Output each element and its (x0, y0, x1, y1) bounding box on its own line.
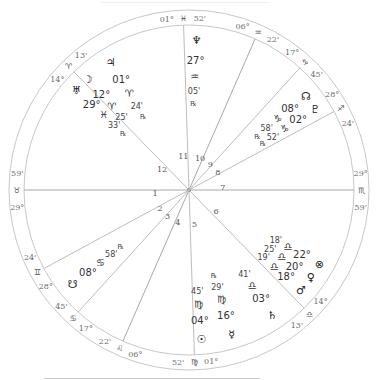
retrograde-icon: ℞ (211, 272, 217, 280)
house-number-9: 9 (208, 160, 213, 169)
natal-chart-wheel: 29°♉59'28°♊24'17°♋45'06°♌22'01°♍52'14°♎1… (0, 0, 378, 380)
cusp-degree: 06° (128, 350, 142, 359)
planet-glyph-icon: ☋ (68, 278, 78, 291)
planet-degree: 04° (191, 315, 209, 326)
house-number-2: 2 (158, 204, 163, 213)
cusp-line-5 (189, 190, 194, 355)
planet-minute: 45' (191, 287, 203, 296)
cusp-degree: 17° (285, 48, 299, 57)
cusp-minute: 45' (310, 70, 322, 79)
cusp-degree: 17° (79, 324, 93, 333)
planet-sign-icon: ♎ (277, 251, 286, 262)
planet-degree: 08° (79, 267, 97, 278)
planet-saturn: ♄03°♎41' (238, 270, 277, 322)
planet-degree: 08° (281, 103, 299, 114)
retrograde-icon: ℞ (117, 243, 123, 251)
cusp-sign-icon: ♎ (306, 310, 313, 319)
cusp-sign-icon: ♌ (116, 344, 123, 353)
cusp-degree: 28° (325, 90, 339, 99)
planet-glyph-icon: ☽ (83, 73, 93, 86)
planet-glyph-icon: ♆ (192, 34, 202, 47)
cusp-sign-icon: ♐ (337, 104, 344, 113)
cusp-sign-icon: ♍ (191, 358, 198, 367)
planet-minute: 29' (211, 283, 223, 292)
planet-sign-icon: ♓ (99, 109, 108, 120)
cusp-degree: 29° (354, 169, 368, 178)
planet-minute: 58' (261, 124, 273, 133)
cusp-minute: 52' (172, 358, 184, 367)
cusp-sign-icon: ♓ (180, 14, 187, 23)
cusp-line-3 (78, 190, 189, 312)
house-number-5: 5 (192, 220, 197, 229)
cusp-minute: 13' (75, 51, 87, 60)
planet-glyph-icon: ♄ (267, 309, 277, 322)
planet-glyph-icon: ♂ (296, 284, 306, 297)
cusp-degree: 14° (314, 297, 328, 306)
cusp-minute: 22' (99, 337, 111, 346)
cusp-degree: 01° (160, 15, 174, 24)
planet-glyph-icon: ♃ (106, 56, 116, 69)
planet-degree: 02° (289, 114, 307, 125)
retrograde-icon: ℞ (260, 140, 266, 148)
house-number-12: 12 (157, 165, 167, 174)
planet-sign-icon: ♈ (108, 101, 117, 112)
planet-degree: 27° (187, 55, 205, 66)
planet-degree: 20° (286, 261, 304, 272)
planet-mercury: ☿16°♍29'℞ (211, 272, 235, 340)
planet-sign-icon: ♍ (194, 299, 203, 310)
planet-glyph-icon: ⊗ (315, 258, 324, 271)
cusp-minute: 52' (194, 14, 206, 23)
cusp-sign-icon: ♈ (65, 62, 72, 71)
house-number-11: 11 (178, 152, 188, 161)
planet-neptune: ♆27°♒05'℞ (187, 34, 205, 108)
house-number-10: 10 (195, 154, 205, 163)
cusp-sign-icon: ♒ (255, 28, 262, 37)
house-number-3: 3 (165, 212, 170, 221)
retrograde-icon: ℞ (190, 100, 196, 108)
planet-glyph-icon: ♇ (310, 103, 320, 116)
planet-degree: 01° (112, 74, 130, 85)
house-number-4: 4 (175, 218, 180, 227)
retrograde-icon: ℞ (140, 113, 146, 121)
planet-degree: 03° (252, 293, 270, 304)
cusp-degree: 28° (39, 282, 53, 291)
cusp-line-11 (184, 25, 189, 190)
retrograde-icon: ℞ (254, 133, 260, 141)
cusp-minute: 59' (11, 169, 23, 178)
cusp-sign-icon: ♊ (34, 268, 41, 277)
cusp-minute: 45' (55, 302, 67, 311)
planet-minute: 24' (131, 102, 143, 111)
house-number-1: 1 (153, 189, 158, 198)
planet-degree: 18° (277, 271, 295, 282)
planet-sign-icon: ♋ (96, 257, 105, 268)
cusp-minute: 22' (267, 35, 279, 44)
retrograde-icon: ℞ (120, 130, 126, 138)
planet-degree: 16° (217, 310, 235, 321)
planet-sign-icon: ♎ (248, 280, 257, 291)
planet-minute: 41' (238, 270, 250, 279)
house-number-7: 7 (220, 183, 225, 192)
planet-degree: 22° (293, 249, 311, 260)
planet-minute: 25' (264, 245, 276, 254)
planet-glyph-icon: ☉ (197, 333, 207, 346)
planet-sign-icon: ♎ (284, 241, 293, 252)
planet-sign-icon: ♍ (217, 294, 226, 305)
cusp-lines (24, 25, 354, 355)
cusp-degree: 29° (10, 203, 24, 212)
house-number-6: 6 (213, 207, 218, 216)
planet-glyph-icon: ♀ (307, 271, 315, 284)
cusp-sign-icon: ♉ (13, 186, 20, 195)
planet-degree: 29° (83, 99, 101, 110)
cusp-degree: 14° (50, 75, 64, 84)
planet-glyph-icon: ☿ (228, 328, 235, 341)
planet-minute: 33' (108, 121, 120, 130)
cusp-minute: 59' (355, 203, 367, 212)
planet-minute: 18' (270, 236, 282, 245)
planet-glyph-icon: ☊ (301, 90, 311, 103)
house-number-8: 8 (215, 168, 220, 177)
cusp-sign-icon: ♋ (69, 314, 76, 323)
planet-minute: 19' (258, 253, 270, 262)
cusp-line-4 (123, 190, 189, 341)
planet-minute: 52' (267, 133, 279, 142)
cusp-sign-icon: ♑ (301, 58, 308, 67)
